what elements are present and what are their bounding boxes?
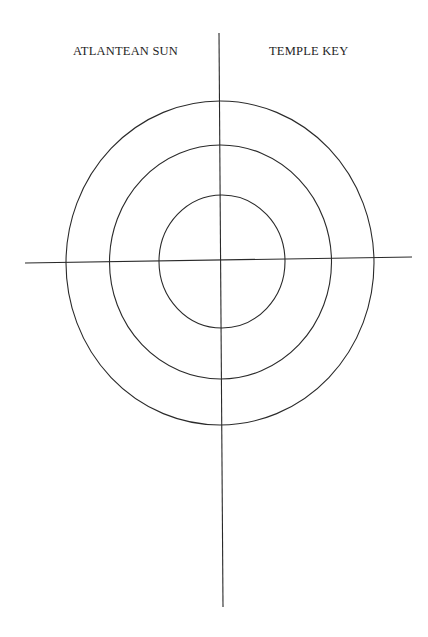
concentric-circle-diagram — [0, 0, 428, 637]
horizontal-axis-line — [25, 257, 412, 263]
vertical-axis-line — [219, 33, 223, 607]
inner-circle — [159, 195, 285, 328]
